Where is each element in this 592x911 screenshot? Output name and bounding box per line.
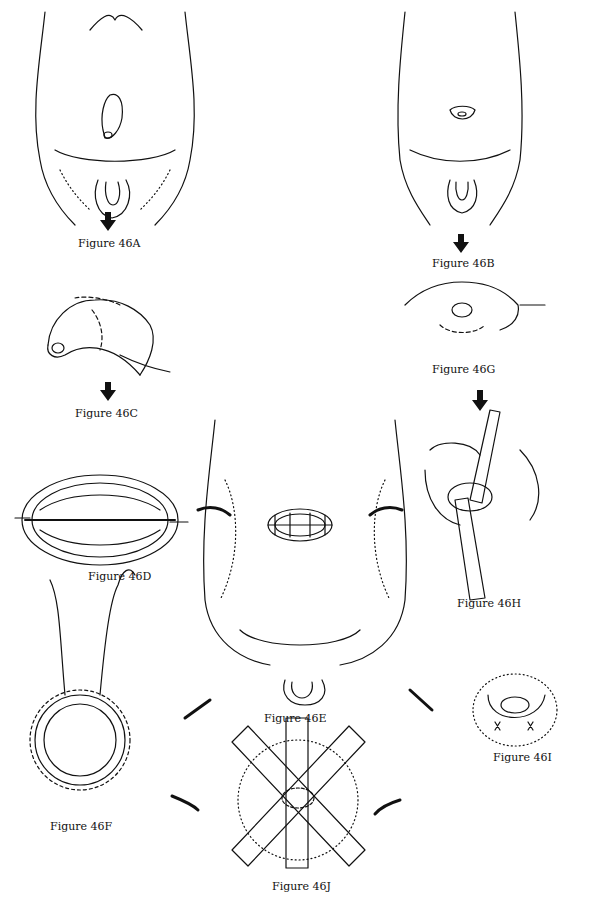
- figure-46f-label: Figure 46F: [50, 820, 112, 833]
- arrow-down-icon: [472, 390, 488, 411]
- figure-46f-drawing: [30, 570, 135, 790]
- figure-46h-label: Figure 46H: [457, 597, 521, 610]
- figure-46d-label: Figure 46D: [88, 570, 151, 583]
- figure-46d-drawing: [15, 475, 188, 565]
- figure-46a-drawing: [36, 12, 195, 225]
- figure-46c-label: Figure 46C: [75, 407, 138, 420]
- figure-46i-drawing: [473, 674, 557, 746]
- figure-46j-label: Figure 46J: [272, 880, 331, 893]
- figure-46b-label: Figure 46B: [432, 257, 495, 270]
- arrow-icon: [185, 700, 210, 718]
- figure-46e-drawing: [204, 420, 407, 705]
- curved-arrow-icon: [375, 800, 400, 814]
- figure-46i-label: Figure 46I: [493, 751, 552, 764]
- figure-46e-label: Figure 46E: [264, 712, 327, 725]
- figure-46g-label: Figure 46G: [432, 363, 495, 376]
- arrow-down-icon: [100, 382, 116, 401]
- figure-46j-drawing: [232, 718, 365, 868]
- figure-46a-label: Figure 46A: [78, 237, 140, 250]
- curved-arrow-icon: [370, 508, 402, 515]
- curved-arrow-icon: [172, 796, 198, 810]
- curved-arrow-icon: [198, 508, 230, 515]
- arrow-down-icon: [100, 212, 116, 231]
- illustration-canvas: [0, 0, 592, 911]
- arrow-icon: [410, 690, 432, 710]
- figure-46g-drawing: [405, 282, 545, 333]
- figure-46c-drawing: [48, 297, 170, 375]
- figure-46b-drawing: [398, 12, 522, 225]
- figure-46h-drawing: [425, 410, 539, 600]
- arrow-down-icon: [453, 234, 469, 253]
